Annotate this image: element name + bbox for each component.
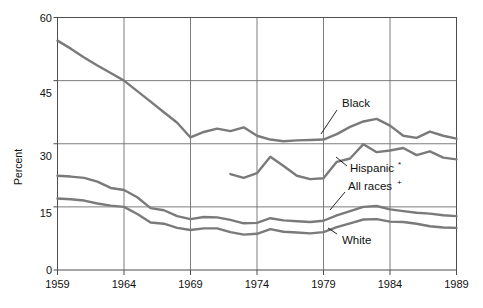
- x-tick-label-1974: 1974: [245, 278, 269, 290]
- chart-background: [0, 0, 483, 308]
- y-axis-title: Percent: [12, 149, 24, 185]
- y-tick-label-30: 30: [40, 150, 52, 162]
- line-chart: 60 45 30 15 0 Percent 1959 1964 1969 197…: [0, 0, 483, 308]
- x-tick-label-1964: 1964: [112, 278, 136, 290]
- series-label-hispanic-footnote-mark: *: [398, 160, 401, 169]
- y-tick-label-60: 60: [40, 12, 52, 24]
- y-tick-label-0: 0: [46, 264, 52, 276]
- series-label-all-races: All races: [348, 180, 392, 192]
- x-tick-label-1969: 1969: [178, 278, 202, 290]
- chart-root: 60 45 30 15 0 Percent 1959 1964 1969 197…: [0, 0, 483, 308]
- x-tick-label-1989: 1989: [444, 278, 468, 290]
- x-tick-label-1984: 1984: [378, 278, 402, 290]
- series-label-hispanic: Hispanic: [350, 162, 394, 174]
- x-tick-label-1979: 1979: [311, 278, 335, 290]
- x-tick-label-1959: 1959: [45, 278, 69, 290]
- y-tick-label-15: 15: [40, 207, 52, 219]
- series-label-all-races-footnote-mark: +: [397, 178, 402, 187]
- y-tick-label-45: 45: [40, 87, 52, 99]
- series-label-white: White: [342, 234, 371, 246]
- series-label-hispanic-group: Hispanic *: [350, 160, 401, 174]
- series-label-black: Black: [342, 97, 370, 109]
